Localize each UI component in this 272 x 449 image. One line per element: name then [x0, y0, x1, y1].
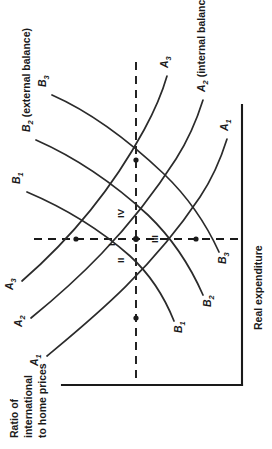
- curve-a3: [22, 76, 167, 281]
- curve-label-a2-right: A2 (internal balance): [195, 0, 210, 93]
- intersection-lower: [133, 315, 138, 320]
- intersection-left: [73, 236, 78, 241]
- curve-label-a3-left: A3: [3, 277, 18, 291]
- curve-label-b1-left: B1: [10, 172, 25, 184]
- y-axis-title-line-3: to home prices: [36, 363, 48, 438]
- curve-label-b3-left: B3: [36, 74, 51, 87]
- zone-label-iv: IV: [115, 208, 126, 218]
- equilibrium-point: [133, 236, 139, 242]
- y-axis-title-line-1: Ratio of: [8, 398, 20, 438]
- curve-label-a3-right: A3: [158, 55, 173, 69]
- curve-a2: [31, 100, 203, 318]
- x-axis-title: Real expenditure: [252, 245, 264, 330]
- zone-label-iii: III: [149, 235, 160, 243]
- a-curve-labels-left: A1 A2 A3: [3, 277, 43, 367]
- diagram-canvas: I II III IV A1 A2 A3 A1 A2 (internal bal…: [0, 0, 272, 449]
- equilibrium-guides: [34, 62, 242, 385]
- zone-label-ii: II: [115, 258, 126, 263]
- curve-label-a2-left: A2: [12, 314, 27, 328]
- intersection-right: [193, 236, 198, 241]
- y-axis-title-line-2: international: [22, 375, 34, 438]
- curve-label-b3-right: B3: [216, 251, 231, 264]
- curve-label-a1-right: A1: [218, 119, 233, 132]
- curve-a1: [47, 139, 227, 356]
- swan-diagram-figure: I II III IV A1 A2 A3 A1 A2 (internal bal…: [0, 0, 272, 449]
- zone-labels: I II III IV: [106, 208, 160, 263]
- curve-label-b2-right: B2: [201, 294, 216, 307]
- b-curve-labels-left: B1 B2 (external balance) B3: [10, 28, 51, 184]
- zone-label-i: I: [106, 243, 117, 246]
- curve-label-b1-right: B1: [172, 321, 187, 333]
- intersection-upper: [133, 157, 138, 162]
- b-curves: [27, 95, 219, 321]
- curve-label-b2-left: B2 (external balance): [20, 28, 35, 132]
- a-curve-labels-right: A1 A2 (internal balance) A3: [158, 0, 233, 132]
